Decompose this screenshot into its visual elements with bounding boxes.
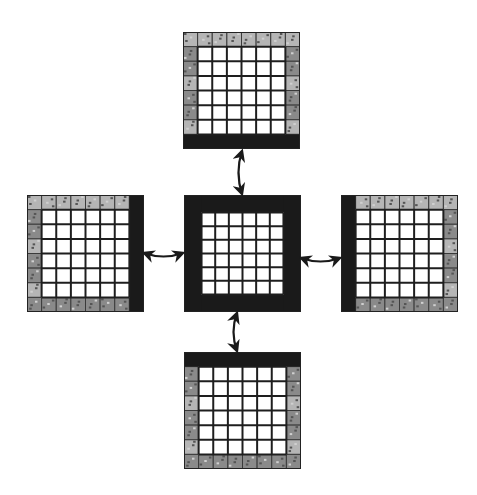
double-arrow-right-center (301, 258, 340, 262)
arrows-layer (0, 0, 477, 495)
double-arrow-top-center (239, 151, 243, 194)
double-arrow-left-center (144, 253, 183, 257)
double-arrow-bottom-center (234, 313, 238, 351)
